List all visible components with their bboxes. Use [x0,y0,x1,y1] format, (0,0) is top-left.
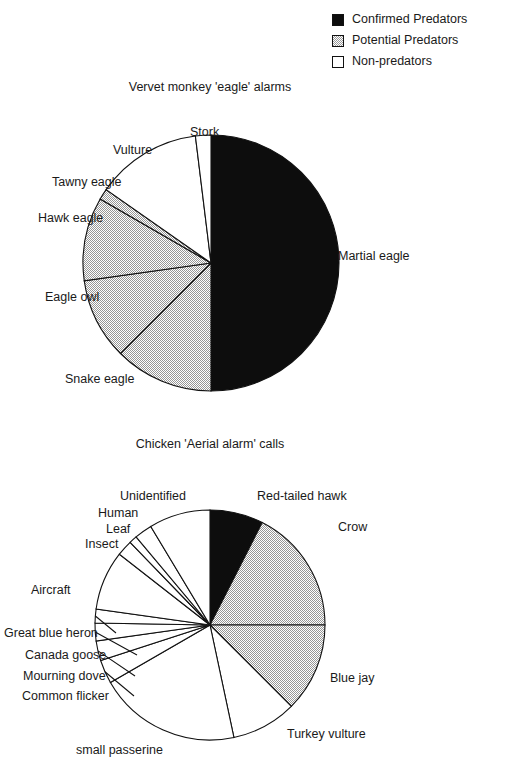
pie-slice-label: Canada goose [25,648,106,662]
pie-slice-label: Aircraft [31,583,71,597]
pie-slice-label: small passerine [76,743,163,757]
pie-slice-label: Red-tailed hawk [257,489,347,503]
pie-slice-label: Mourning dove [23,669,106,683]
pie-slice-label: Vulture [113,143,152,157]
pie-slice-label: Leaf [106,522,130,536]
pie-slice-label: Hawk eagle [38,211,103,225]
pie-slice-label: Insect [85,537,118,551]
pie-slice-label: Stork [190,125,219,139]
pie-slice-label: Human [98,506,138,520]
pie-slice-label: Martial eagle [338,249,410,263]
pie-slice-label: Tawny eagle [52,175,122,189]
pie-slice-label: Crow [338,520,367,534]
pie-slice-label: Unidentified [120,489,186,503]
pie-slice-label: Great blue heron [4,626,98,640]
pie-slice-label: Snake eagle [65,372,135,386]
pie-slice[interactable] [211,135,339,391]
pie-chart-chicken [95,510,325,740]
pie-slice-label: Turkey vulture [287,727,366,741]
pie-slice-label: Common flicker [22,689,109,703]
figure-root: Confirmed Predators Potential Predators … [0,0,506,765]
pie-slice-label: Blue jay [330,671,374,685]
pie-slice-label: Eagle owl [45,290,99,304]
pie-chart-vervet-monkey [83,135,339,391]
